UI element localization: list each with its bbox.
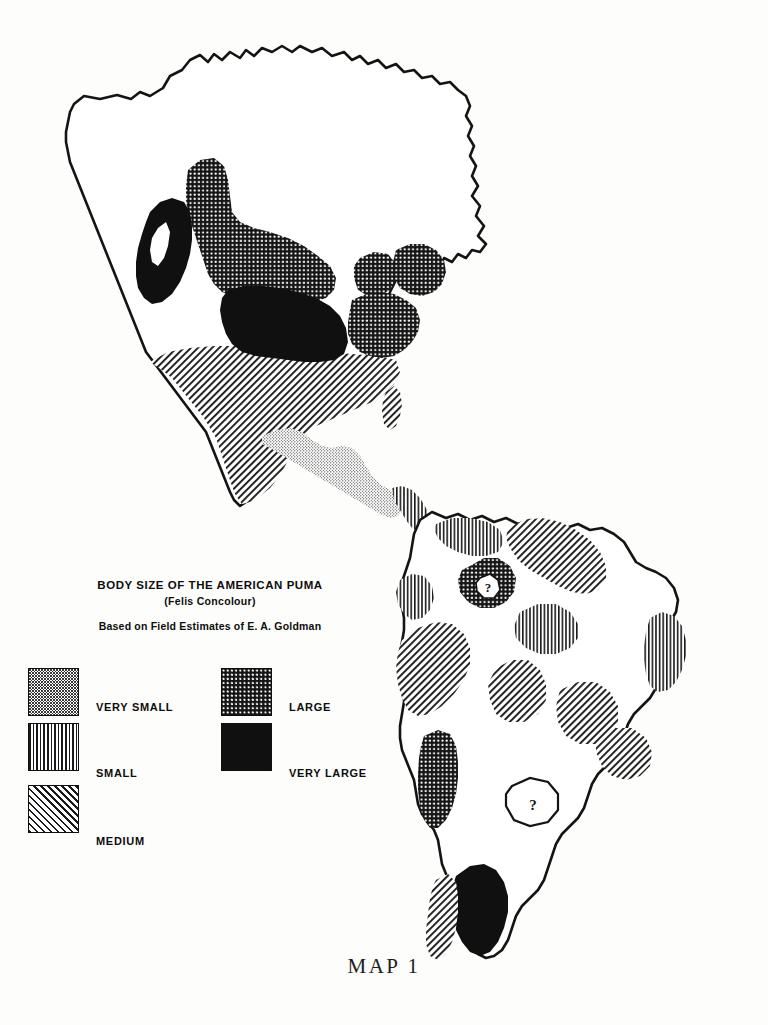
unknown-marker-chaco: ? — [529, 797, 537, 813]
map-page: ? ? — [0, 0, 768, 1025]
unknown-marker-peru: ? — [485, 580, 492, 595]
map-figure: ? ? — [0, 0, 768, 1025]
map-landmasses: ? ? — [66, 46, 686, 960]
region-eastern-united-states — [348, 292, 420, 358]
map-title-block: BODY SIZE OF THE AMERICAN PUMA (Felis Co… — [60, 578, 360, 633]
legend-label-very-large: VERY LARGE — [289, 767, 367, 779]
region-southern-mexico-central-america — [262, 428, 402, 518]
region-central-brazil — [488, 660, 546, 722]
legend-swatch-medium — [28, 785, 79, 833]
map-title: BODY SIZE OF THE AMERICAN PUMA — [60, 578, 360, 592]
region-southern-chile-coast — [426, 874, 458, 960]
map-source-note: Based on Field Estimates of E. A. Goldma… — [60, 620, 360, 633]
legend-label-very-small: VERY SMALL — [96, 701, 173, 713]
map-subtitle: (Felis Concolour) — [60, 595, 360, 608]
region-brazil-southeast-coast — [596, 728, 652, 780]
legend-swatch-very-large — [221, 723, 272, 771]
americas-map-svg: ? ? — [0, 0, 768, 1025]
legend-swatch-large — [221, 668, 272, 716]
legend-swatch-very-small — [28, 668, 79, 716]
legend-label-small: SMALL — [96, 767, 137, 779]
legend-label-medium: MEDIUM — [96, 835, 145, 847]
legend-label-large: LARGE — [289, 701, 331, 713]
legend-swatch-small — [28, 723, 79, 771]
map-caption: MAP 1 — [0, 954, 768, 979]
region-appalachians — [354, 252, 396, 296]
region-eastern-brazil-coast — [644, 612, 686, 692]
